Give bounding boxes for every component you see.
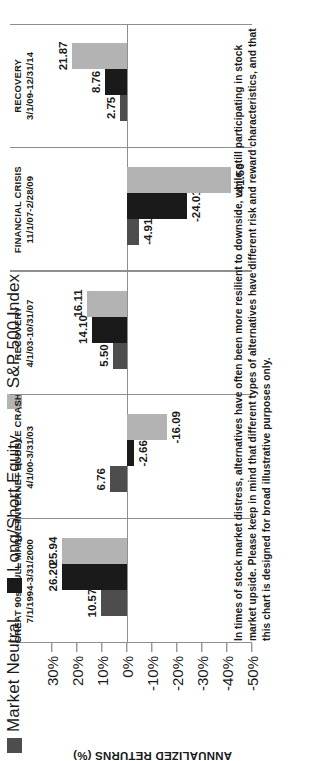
y-axis-tick: 0%	[126, 643, 127, 652]
category-separator	[10, 642, 252, 643]
legend-swatch-market-neutral	[7, 738, 22, 753]
category-label: FINANCIAL CRISIS11/1/07-2/28/09	[12, 166, 36, 253]
bar-value-label: -24.01	[190, 189, 202, 222]
y-axis-tick-label: 0%	[118, 656, 135, 678]
y-axis-tick-mark	[126, 643, 127, 652]
plot-area: GREAT 90s BULL MARKET7/1/1994-3/31/20001…	[52, 24, 252, 643]
chart-category-group: INTERNET BUBBLE CRASH4/1/00-3/31/036.76-…	[52, 395, 252, 519]
bar-value-label: 2.75	[105, 97, 117, 119]
rotated-figure-wrapper: Market Neutral Long/Short Equity S&P 500…	[0, 0, 309, 761]
category-period: 11/1/07-2/28/09	[24, 166, 36, 253]
category-separator	[10, 518, 252, 519]
y-axis-tick-label: -10%	[143, 656, 160, 691]
bar-value-label: 21.87	[57, 42, 69, 71]
category-separator	[10, 394, 252, 395]
category-period: 7/1/1994-3/31/2000	[24, 519, 36, 643]
chart-bar: 26.20	[62, 564, 128, 590]
bar-value-label: 16.11	[72, 289, 84, 317]
y-axis-tick: -10%	[151, 643, 152, 652]
y-axis-tick-label: -20%	[168, 656, 185, 691]
category-separator	[10, 147, 252, 148]
chart-figure: Market Neutral Long/Short Equity S&P 500…	[0, 0, 309, 761]
category-separator	[10, 270, 252, 271]
bar-value-label: -16.09	[170, 411, 182, 444]
y-axis-tick-mark	[151, 643, 152, 652]
category-label: GREAT 90s BULL MARKET7/1/1994-3/31/2000	[12, 519, 36, 643]
y-axis-tick-label: 10%	[93, 656, 110, 686]
category-period: 3/1/09-12/31/14	[24, 52, 36, 120]
chart-bar: 6.76	[110, 466, 127, 492]
chart-bar: -16.09	[127, 414, 167, 440]
y-axis-tick-mark	[176, 643, 177, 652]
chart-bar: 21.87	[72, 43, 127, 69]
category-label: RECOVERY4/1/03-10/31/07	[12, 299, 36, 367]
chart-category-group: GREAT 90s BULL MARKET7/1/1994-3/31/20001…	[52, 519, 252, 643]
y-axis-tick: 10%	[101, 643, 102, 652]
bar-value-label: 5.50	[98, 344, 110, 366]
y-axis-tick-mark	[201, 643, 202, 652]
y-axis-tick-mark	[76, 643, 77, 652]
y-axis-tick: -50%	[251, 643, 252, 652]
chart-category-group: FINANCIAL CRISIS11/1/07-2/28/09-4.91-24.…	[52, 148, 252, 272]
chart-bar: 16.11	[87, 291, 127, 317]
y-axis-tick-mark	[51, 643, 52, 652]
y-axis-tick-label: -50%	[243, 656, 260, 691]
category-name: RECOVERY	[12, 52, 24, 120]
bar-value-label: 25.94	[47, 537, 59, 566]
chart-bar: 14.10	[92, 317, 127, 343]
y-axis-tick: -20%	[176, 643, 177, 652]
chart-bar: 8.76	[105, 69, 127, 95]
category-period: 4/1/00-3/31/03	[24, 393, 36, 521]
y-axis-tick-label: -30%	[193, 656, 210, 691]
y-axis-tick-mark	[101, 643, 102, 652]
y-axis-tick: 30%	[51, 643, 52, 652]
category-label: RECOVERY3/1/09-12/31/14	[12, 52, 36, 120]
bar-value-label: 6.76	[95, 468, 107, 490]
y-axis-tick-label: 30%	[43, 656, 60, 686]
chart-footnote: In times of stock market distress, alter…	[232, 23, 273, 641]
category-separator	[10, 24, 252, 25]
chart-bar: -4.91	[127, 219, 139, 245]
bar-value-label: 8.76	[90, 71, 102, 93]
bar-value-label: 26.20	[47, 563, 59, 592]
y-axis-tick-mark	[226, 643, 227, 652]
y-axis-title: ANNUALIZED RETURNS (%)	[52, 747, 252, 761]
category-name: INTERNET BUBBLE CRASH	[12, 393, 24, 521]
category-name: RECOVERY	[12, 299, 24, 367]
y-axis-tick: 20%	[76, 643, 77, 652]
category-name: FINANCIAL CRISIS	[12, 166, 24, 253]
chart-bar: 10.57	[101, 590, 127, 616]
bar-value-label: 10.57	[86, 589, 98, 618]
category-period: 4/1/03-10/31/07	[24, 299, 36, 367]
chart-bar: -24.01	[127, 193, 187, 219]
chart-category-group: RECOVERY3/1/09-12/31/142.758.7621.87	[52, 24, 252, 148]
chart-bar: 2.75	[120, 95, 127, 121]
y-axis-tick-label: -40%	[218, 656, 235, 691]
chart-category-group: RECOVERY4/1/03-10/31/075.5014.1016.11	[52, 272, 252, 396]
category-label: INTERNET BUBBLE CRASH4/1/00-3/31/03	[12, 393, 36, 521]
category-name: GREAT 90s BULL MARKET	[12, 519, 24, 643]
y-axis-tick-mark	[251, 643, 252, 652]
y-axis-tick: -30%	[201, 643, 202, 652]
chart-bar: -41.50	[127, 167, 231, 193]
chart-bar: 25.94	[62, 538, 127, 564]
chart-bar: -2.66	[127, 440, 134, 466]
bar-value-label: -2.66	[137, 440, 149, 466]
y-axis-tick-label: 20%	[68, 656, 85, 686]
chart-bar: 5.50	[113, 343, 127, 369]
bar-value-label: -4.91	[142, 219, 154, 245]
y-axis-tick: -40%	[226, 643, 227, 652]
bar-value-label: 14.10	[77, 315, 89, 344]
